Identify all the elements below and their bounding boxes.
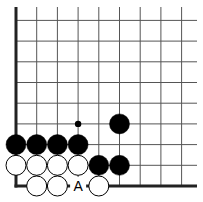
white-stone	[68, 155, 88, 175]
black-stone	[47, 135, 67, 155]
white-stone	[47, 176, 67, 196]
white-stone	[47, 155, 67, 175]
black-stone	[110, 155, 130, 175]
board-markers	[75, 121, 81, 127]
go-board: A	[0, 0, 203, 202]
point-marker-dot	[75, 121, 81, 127]
point-label-a: A	[73, 178, 83, 194]
black-stone	[68, 135, 88, 155]
black-stone	[6, 135, 26, 155]
black-stone	[27, 135, 47, 155]
white-stone	[89, 176, 109, 196]
board-labels: A	[70, 177, 86, 194]
board-stones	[6, 114, 130, 196]
white-stone	[27, 155, 47, 175]
black-stone	[110, 114, 130, 134]
black-stone	[89, 155, 109, 175]
white-stone	[6, 155, 26, 175]
white-stone	[27, 176, 47, 196]
